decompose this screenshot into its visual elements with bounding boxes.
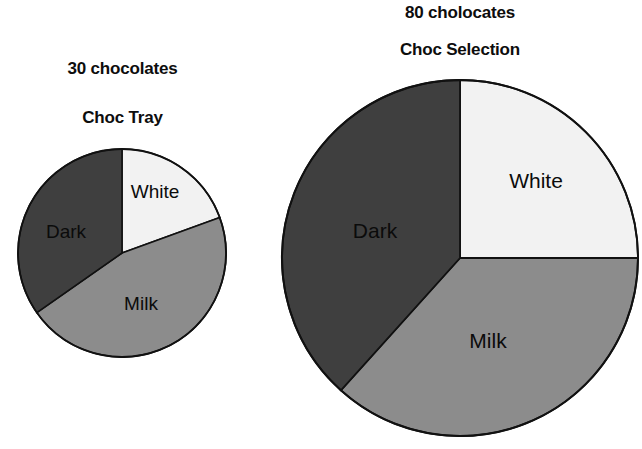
large-slice-label-dark: Dark	[353, 219, 398, 242]
small-pie-chart: White Milk Dark	[9, 140, 235, 366]
small-slice-label-milk: Milk	[124, 293, 158, 314]
large-chart-title: Choc Selection	[300, 40, 620, 60]
large-slice-label-milk: Milk	[469, 329, 507, 352]
small-chart-count-caption: 30 chocolates	[0, 59, 245, 79]
large-chart-count-caption: 80 cholocates	[300, 3, 620, 23]
figure-canvas: 30 chocolates Choc Tray White Milk Dark …	[0, 0, 642, 449]
large-pie-svg: White Milk Dark	[278, 76, 642, 440]
large-pie-chart: White Milk Dark	[278, 76, 642, 440]
small-slice-label-white: White	[131, 181, 180, 202]
large-slice-label-white: White	[509, 169, 563, 192]
small-slice-label-dark: Dark	[46, 221, 87, 242]
small-chart-title: Choc Tray	[0, 108, 245, 128]
small-pie-svg: White Milk Dark	[9, 140, 235, 366]
